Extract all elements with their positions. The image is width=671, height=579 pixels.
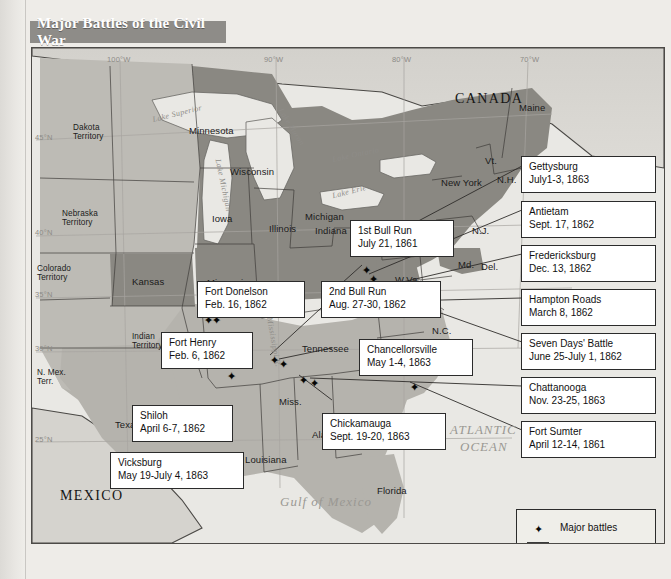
state-label: Indiana [315, 226, 347, 236]
battle-star-icon: ✦ [227, 371, 236, 382]
battle-star-icon: ✦ [410, 382, 419, 393]
battle-callout[interactable]: Fort SumterApril 12-14, 1861 [521, 421, 656, 458]
state-label: Michigan [305, 212, 344, 222]
battle-name: Fort Sumter [529, 426, 648, 439]
page-frame: Major Battles of the Civil War [0, 0, 671, 579]
union-color-swatch [527, 542, 549, 545]
country-label: MEXICO [60, 489, 124, 504]
state-label: Minnesota [189, 126, 234, 136]
country-label: CANADA [455, 92, 523, 107]
state-label: Iowa [212, 214, 232, 224]
battle-date: April 12-14, 1861 [529, 439, 648, 452]
battle-callout[interactable]: FredericksburgDec. 13, 1862 [521, 245, 656, 282]
battle-star-icon: ✦ [310, 378, 319, 389]
state-label: ColoradoTerritory [37, 264, 71, 282]
graticule-label: 45°N [35, 134, 53, 142]
battle-star-icon: ✦ [299, 375, 308, 386]
battle-name: 2nd Bull Run [329, 286, 433, 299]
map-legend: ✦ Major battles Union states Confederate… [516, 509, 656, 544]
graticule-label: 40°N [35, 229, 53, 237]
state-label: Louisiana [245, 455, 287, 465]
graticule-label: 35°N [35, 291, 53, 299]
battle-callout[interactable]: ChancellorsvilleMay 1-4, 1863 [359, 339, 473, 376]
battle-callout[interactable]: ChickamaugaSept. 19-20, 1863 [322, 413, 446, 450]
battle-name: Chickamauga [330, 418, 438, 431]
battle-date: July1-3, 1863 [529, 174, 648, 187]
legend-label-union: Union states [560, 543, 616, 544]
battle-date: April 6-7, 1862 [140, 423, 225, 436]
battle-callout[interactable]: GettysburgJuly1-3, 1863 [521, 156, 656, 193]
battle-name: Fredericksburg [529, 250, 648, 263]
battle-callout[interactable]: VicksburgMay 19-July 4, 1863 [110, 452, 244, 489]
battle-date: Feb. 16, 1862 [205, 299, 297, 312]
state-label: N.H. [497, 175, 516, 185]
battle-callout[interactable]: Seven Days' BattleJune 25-July 1, 1862 [521, 333, 656, 370]
battle-name: Fort Donelson [205, 286, 297, 299]
water-label: Gulf of Mexico [280, 495, 372, 509]
state-label: N. Mex.Terr. [37, 368, 66, 386]
battle-date: July 21, 1861 [358, 238, 446, 251]
state-label: Florida [377, 486, 407, 496]
state-label: N.J. [472, 226, 489, 236]
map-canvas[interactable]: CANADAMEXICO Lake SuperiorLake MichiganL… [31, 47, 665, 544]
state-label: N.C. [432, 326, 451, 336]
battle-date: May 1-4, 1863 [367, 357, 465, 370]
legend-row-battles: ✦ Major battles [527, 517, 655, 538]
graticule-label: 90°W [264, 56, 283, 64]
battle-callout[interactable]: ChattanoogaNov. 23-25, 1863 [521, 377, 656, 414]
state-label: Del. [481, 262, 498, 272]
graticule-label: 70°W [520, 56, 539, 64]
map-inner: CANADAMEXICO Lake SuperiorLake MichiganL… [32, 48, 664, 543]
battle-name: Chancellorsville [367, 344, 465, 357]
battle-date: Nov. 23-25, 1863 [529, 395, 648, 408]
battle-name: Chattanooga [529, 382, 648, 395]
battle-callout[interactable]: Fort HenryFeb. 6, 1862 [161, 332, 253, 369]
graticule-label: 30°N [35, 345, 53, 353]
graticule-label: 25°N [35, 436, 53, 444]
battle-name: Gettysburg [529, 161, 648, 174]
state-label: New York [441, 178, 482, 188]
legend-row-union: Union states [527, 538, 655, 544]
battle-name: Shiloh [140, 410, 225, 423]
battle-name: Vicksburg [118, 457, 236, 470]
battle-name: Antietam [529, 206, 648, 219]
battle-date: Sept. 17, 1862 [529, 219, 648, 232]
battle-name: Fort Henry [169, 337, 245, 350]
battle-star-icon: ✦ [279, 359, 288, 370]
state-label: DakotaTerritory [73, 123, 103, 141]
page-gutter [0, 0, 26, 579]
battle-name: 1st Bull Run [358, 225, 446, 238]
battle-date: Aug. 27-30, 1862 [329, 299, 433, 312]
battle-star-icon: ✦ [270, 355, 279, 366]
map-title-bar: Major Battles of the Civil War [30, 21, 226, 43]
battle-callout[interactable]: 1st Bull RunJuly 21, 1861 [350, 220, 454, 257]
state-label: Miss. [279, 397, 302, 407]
battle-callout[interactable]: AntietamSept. 17, 1862 [521, 201, 656, 238]
battle-name: Seven Days' Battle [529, 338, 648, 351]
battle-date: Sept. 19-20, 1863 [330, 431, 438, 444]
gutter-divider [25, 0, 26, 579]
page-title: Major Battles of the Civil War [30, 15, 226, 49]
star-icon: ✦ [527, 519, 549, 537]
state-label: Tennessee [302, 344, 349, 354]
legend-label-battles: Major battles [560, 522, 617, 533]
battle-date: Feb. 6, 1862 [169, 350, 245, 363]
water-label: OCEAN [460, 440, 508, 454]
state-label: IndianTerritory [132, 332, 162, 350]
battle-name: Hampton Roads [529, 294, 648, 307]
battle-date: Dec. 13, 1862 [529, 263, 648, 276]
battle-callout[interactable]: Fort DonelsonFeb. 16, 1862 [197, 281, 305, 318]
battle-callout[interactable]: Hampton RoadsMarch 8, 1862 [521, 289, 656, 326]
state-label: Illinois [269, 224, 296, 234]
state-label: Vt. [485, 156, 497, 166]
battle-date: June 25-July 1, 1862 [529, 351, 648, 364]
battle-callout[interactable]: ShilohApril 6-7, 1862 [132, 405, 233, 442]
state-label: NebraskaTerritory [62, 209, 98, 227]
graticule-label: 100°W [107, 56, 131, 64]
state-label: Kansas [132, 277, 164, 287]
water-label: ATLANTIC [450, 423, 517, 437]
state-label: Md. [458, 260, 474, 270]
battle-callout[interactable]: 2nd Bull RunAug. 27-30, 1862 [321, 281, 441, 318]
state-label: Maine [519, 103, 545, 113]
battle-date: March 8, 1862 [529, 307, 648, 320]
